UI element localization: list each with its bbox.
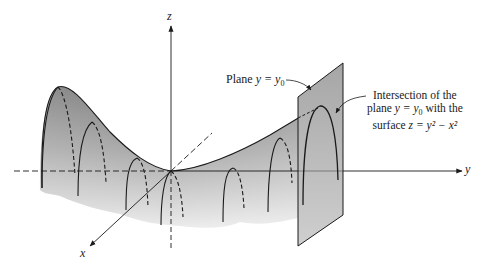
plane-label-leader	[286, 80, 311, 90]
y-axis-label: y	[465, 163, 470, 176]
x-axis-label: x	[80, 247, 85, 260]
plane-label: Plane y = y0	[226, 73, 284, 90]
z-axis-label: z	[167, 10, 172, 23]
intersection-label: Intersection of the plane y = y0 with th…	[367, 89, 463, 132]
saddle-surface	[40, 86, 300, 227]
saddle-surface-diagram	[0, 0, 480, 268]
plane-y-equals-y0	[298, 63, 343, 246]
